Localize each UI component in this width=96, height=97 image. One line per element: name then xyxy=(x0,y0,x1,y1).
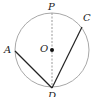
label-p: P xyxy=(47,1,55,12)
chord-cd xyxy=(52,27,82,88)
label-d: D xyxy=(47,90,56,97)
circle-diagram: P C A O D xyxy=(0,0,96,97)
label-o: O xyxy=(40,43,48,54)
label-c: C xyxy=(83,12,91,23)
label-a: A xyxy=(3,44,11,55)
center-point-o xyxy=(50,48,54,52)
